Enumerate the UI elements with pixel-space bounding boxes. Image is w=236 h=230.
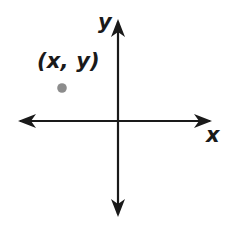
y-axis-label: y [98,12,112,33]
data-point-xy [57,83,67,93]
x-axis-label: x [206,125,220,146]
coordinate-plane-figure [0,0,236,230]
point-label-xy: (x, y) [37,51,100,72]
